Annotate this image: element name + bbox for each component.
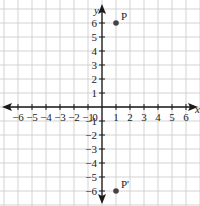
x-tick-label: −4 (40, 111, 52, 123)
y-tick-label: 2 (92, 73, 98, 85)
x-tick-label: 5 (169, 111, 175, 123)
point-marker (113, 188, 119, 194)
point-label: P' (121, 178, 129, 190)
data-points: PP' (113, 10, 129, 194)
y-tick-label: 6 (92, 17, 98, 29)
y-tick-label: −2 (85, 129, 97, 141)
x-tick-label: −6 (12, 111, 24, 123)
y-tick-label: −6 (85, 185, 97, 197)
origin-label: 0 (92, 111, 98, 123)
coordinate-plane: −6−5−4−3−2−1123456 654321−1−2−3−4−5−6 0 … (0, 0, 200, 206)
y-tick-label: −4 (85, 157, 97, 169)
point-label: P (121, 10, 127, 22)
axes (2, 4, 198, 204)
x-axis-label: x (194, 103, 200, 115)
y-tick-label: −5 (85, 171, 97, 183)
grid-lines (0, 0, 200, 206)
x-tick-label: 2 (127, 111, 133, 123)
y-tick-label: 3 (92, 59, 98, 71)
x-tick-label: −5 (26, 111, 38, 123)
y-tick-label: 1 (92, 87, 98, 99)
y-tick-label: 5 (92, 31, 98, 43)
x-tick-label: 3 (141, 111, 147, 123)
x-tick-label: −3 (54, 111, 66, 123)
y-axis-label: y (93, 4, 99, 16)
x-tick-label: −2 (68, 111, 80, 123)
x-tick-label: 6 (183, 111, 189, 123)
point-marker (113, 20, 119, 26)
y-tick-label: 4 (92, 45, 98, 57)
y-tick-label: −3 (85, 143, 97, 155)
x-tick-label: 4 (155, 111, 161, 123)
x-tick-label: 1 (113, 111, 119, 123)
